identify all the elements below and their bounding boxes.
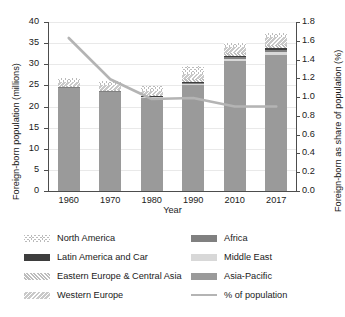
x-tick-label-1990: 1990 [171,195,215,205]
y-tick-label-left: 30 [9,59,39,68]
x-tick-label-2017: 2017 [254,195,298,205]
legend-color-swatch [191,273,217,280]
y-tick-label-left: 25 [9,80,39,89]
legend-label: Africa [224,233,248,243]
y-tick-label-right: 1.8 [302,17,334,26]
legend-item-asia-pacific[interactable]: Asia-Pacific [191,269,272,283]
legend-item-africa[interactable]: Africa [191,231,248,245]
x-axis-title: Year [0,205,345,215]
y-tick-label-right: 1.2 [302,73,334,82]
x-tick-label-1980: 1980 [130,195,174,205]
legend-label: Western Europe [57,290,123,300]
legend-label: Latin America and Car [57,252,148,262]
x-tick-label-2010: 2010 [213,195,257,205]
x-tick-label-1960: 1960 [47,195,91,205]
y-tick-label-right: 1.0 [302,92,334,101]
legend-label: Middle East [224,252,272,262]
legend-item-eastern-europe-central-asia[interactable]: Eastern Europe & Central Asia [24,269,182,283]
legend-label: North America [57,233,115,243]
legend-label: % of population [224,290,287,300]
legend-item-of-population[interactable]: % of population [191,288,287,302]
legend-color-swatch [24,292,50,299]
y-axis-title-right: Foreign-born as share of population (%) [333,50,343,212]
legend-color-swatch [24,254,50,261]
y-tick-label-left: 10 [9,144,39,153]
legend-color-swatch [191,254,217,261]
legend-line-swatch [191,294,217,297]
y-tick-label-right: 0.8 [302,111,334,120]
legend-item-western-europe[interactable]: Western Europe [24,288,123,302]
y-tick-label-right: 0.2 [302,167,334,176]
y-tick-label-right: 0.0 [302,186,334,195]
plot-area: 0510152025303540 0.00.20.40.60.81.01.21.… [48,22,297,192]
legend-label: Asia-Pacific [224,271,272,281]
y-tick-label-right: 1.4 [302,55,334,64]
legend-item-north-america[interactable]: North America [24,231,115,245]
y-tick-label-left: 15 [9,123,39,132]
legend-item-latin-america-and-car[interactable]: Latin America and Car [24,250,148,264]
y-tick-label-left: 35 [9,38,39,47]
legend-color-swatch [24,235,50,242]
y-tick-label-left: 5 [9,165,39,174]
legend-color-swatch [24,273,50,280]
x-tick-label-1970: 1970 [88,195,132,205]
y-tick-label-left: 0 [9,186,39,195]
y-tick-label-right: 1.6 [302,36,334,45]
legend-item-middle-east[interactable]: Middle East [191,250,272,264]
legend-color-swatch [191,235,217,242]
chart-legend: North AmericaLatin America and CarEaster… [24,231,329,313]
y-tick-label-left: 20 [9,102,39,111]
y-tick-label-left: 40 [9,17,39,26]
y-tick-label-right: 0.4 [302,148,334,157]
percent-of-population-line [48,22,297,192]
legend-label: Eastern Europe & Central Asia [57,271,182,281]
chart-container: Foreign-born population (millions) Forei… [0,0,345,317]
y-tick-label-right: 0.6 [302,130,334,139]
